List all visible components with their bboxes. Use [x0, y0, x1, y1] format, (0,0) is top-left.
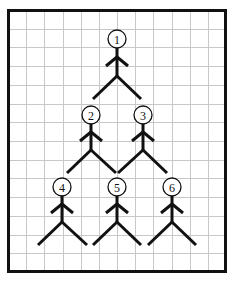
figure-label-1: 1: [114, 33, 120, 47]
figure-label-3: 3: [140, 109, 146, 123]
figure-label-5: 5: [114, 181, 120, 195]
figure-label-6: 6: [169, 181, 175, 195]
figure-label-4: 4: [59, 181, 65, 195]
figure-label-2: 2: [88, 109, 94, 123]
diagram-canvas: 1 2 3 4 5: [0, 0, 232, 281]
